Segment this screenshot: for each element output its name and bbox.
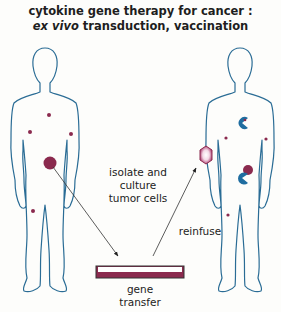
right-body-figure	[206, 48, 274, 292]
left-body-figure	[11, 48, 79, 292]
gene-transfer-line-1: gene	[110, 283, 170, 296]
gene-transfer-label: gene transfer	[110, 283, 170, 309]
left-tumors	[28, 113, 73, 213]
isolate-line-1: isolate and	[98, 166, 178, 179]
isolate-line-2: culture	[98, 179, 178, 192]
isolate-label: isolate and culture tumor cells	[98, 166, 178, 205]
transduced-cell-icon	[200, 146, 212, 164]
isolate-line-3: tumor cells	[98, 192, 178, 205]
reinfuse-label: reinfuse	[170, 225, 230, 238]
culture-dish	[96, 266, 184, 278]
diagram-canvas: cytokine gene therapy for cancer : ex vi…	[0, 0, 281, 312]
diagram-graphics	[0, 0, 281, 312]
immune-cell-icon	[239, 117, 248, 129]
right-cells	[200, 117, 268, 217]
immune-cell-icon-2	[238, 172, 248, 184]
gene-transfer-line-2: transfer	[110, 296, 170, 309]
